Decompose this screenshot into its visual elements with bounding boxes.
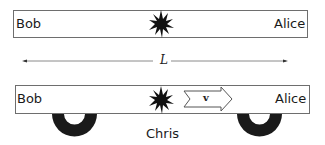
arrowhead-left-icon xyxy=(22,60,27,63)
velocity-label: v xyxy=(203,92,209,103)
relativity-diagram: Bob Alice Bob Alice L v Chris xyxy=(0,0,325,145)
length-label: L xyxy=(157,54,171,67)
flash-burst-icon xyxy=(149,10,174,38)
left-wheel-icon xyxy=(52,114,97,137)
arrowhead-right-icon xyxy=(283,60,288,63)
chris-observer-label: Chris xyxy=(146,127,179,141)
length-arrow xyxy=(22,60,288,63)
flash-burst-icon xyxy=(149,86,174,114)
right-wheel-icon xyxy=(237,114,282,137)
